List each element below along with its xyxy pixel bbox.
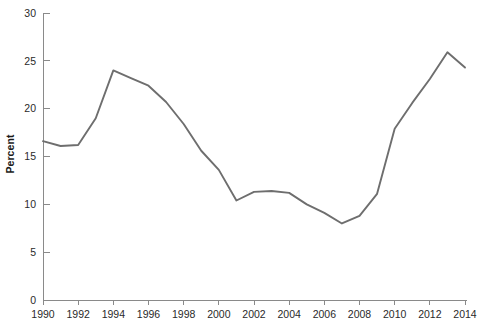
x-tick-label: 2000 <box>207 308 231 320</box>
chart-figure: 051015202530 199019921994199619982000200… <box>0 0 487 329</box>
x-tick-label: 2010 <box>383 308 407 320</box>
x-tick-label: 1998 <box>172 308 196 320</box>
x-tick-label: 2006 <box>313 308 337 320</box>
x-tick-label: 2002 <box>242 308 266 320</box>
y-tick-label: 5 <box>30 246 36 258</box>
x-tick-label: 2014 <box>453 308 477 320</box>
x-tick-label: 2008 <box>348 308 372 320</box>
y-tick-label: 10 <box>24 198 36 210</box>
y-tick-label: 25 <box>24 55 36 67</box>
x-tick-label: 1992 <box>66 308 90 320</box>
y-tick-label: 0 <box>30 294 36 306</box>
x-tick-label: 1994 <box>102 308 126 320</box>
y-tick-label: 30 <box>24 7 36 19</box>
plot-background <box>0 0 487 329</box>
x-tick-label: 2012 <box>418 308 442 320</box>
x-tick-label: 2004 <box>277 308 301 320</box>
y-tick-label: 15 <box>24 150 36 162</box>
x-tick-label: 1990 <box>31 308 55 320</box>
y-tick-label: 20 <box>24 102 36 114</box>
line-chart-plot: 051015202530 199019921994199619982000200… <box>0 0 487 329</box>
x-tick-label: 1996 <box>137 308 161 320</box>
